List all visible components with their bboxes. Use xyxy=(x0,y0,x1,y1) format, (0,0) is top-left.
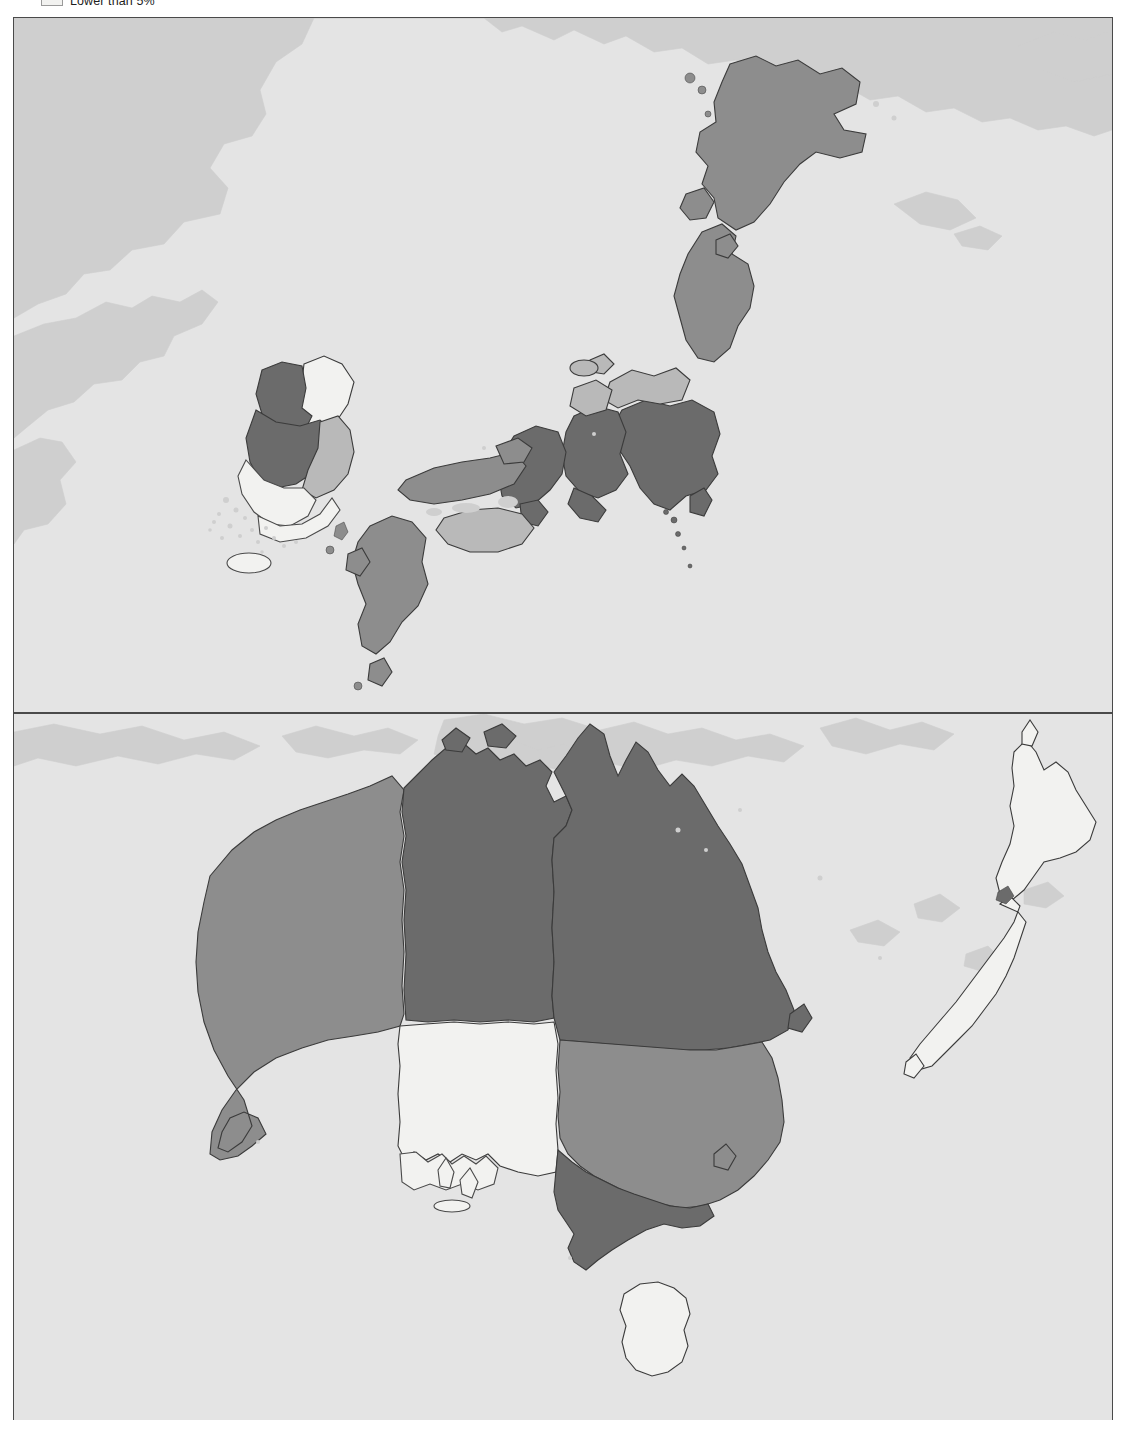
legend: Lower than 5% xyxy=(41,0,155,9)
island-sado[interactable] xyxy=(570,360,598,376)
east-asia-panel[interactable] xyxy=(14,18,1112,713)
region-tasmania[interactable] xyxy=(620,1282,690,1376)
region-northern-territory[interactable] xyxy=(402,742,572,1022)
east-asia-map-svg[interactable] xyxy=(14,18,1112,713)
island-iki[interactable] xyxy=(326,546,334,554)
island-teuri[interactable] xyxy=(705,111,711,117)
oceania-panel[interactable] xyxy=(14,714,1112,1420)
map-panel-container xyxy=(13,17,1113,1420)
legend-label-lower-than-5: Lower than 5% xyxy=(70,0,155,8)
island-rishiri[interactable] xyxy=(685,73,695,83)
island-rebun[interactable] xyxy=(698,86,706,94)
region-south-australia[interactable] xyxy=(398,1022,558,1176)
region-jeju[interactable] xyxy=(227,553,271,573)
oceania-map-svg[interactable] xyxy=(14,714,1112,1420)
island-kangaroo[interactable] xyxy=(434,1200,470,1212)
island-yakushima[interactable] xyxy=(354,682,362,690)
map-figure: { "legend": { "items": [ { "label": "Low… xyxy=(0,0,1127,1433)
legend-swatch-lower-than-5 xyxy=(41,0,63,6)
